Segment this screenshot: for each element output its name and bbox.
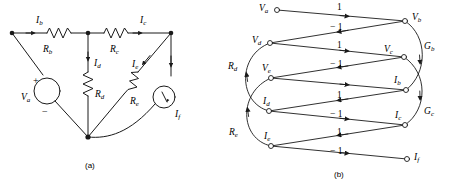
circuit-node-top-middle xyxy=(86,31,91,36)
graph-label-vd: Vd xyxy=(252,36,261,47)
label-current-if: If xyxy=(175,110,180,121)
label-resistor-re: Re xyxy=(130,97,139,108)
graph-label-ib: Ib xyxy=(394,76,401,87)
figure-container: Ib Ic Id Ie If Rb Rc Rd Re Va + − Va Vd … xyxy=(0,0,450,183)
graph-label-vc: Vc xyxy=(384,45,393,56)
graph-node-ve xyxy=(269,76,274,81)
graph-node-ib xyxy=(404,88,409,93)
graph-label-vb: Vb xyxy=(412,13,421,24)
label-current-ic: Ic xyxy=(140,16,146,27)
wire-re-lower xyxy=(88,94,124,137)
current-source-needle-tip xyxy=(167,99,170,102)
label-resistor-rb: Rb xyxy=(43,45,52,56)
graph-node-vd xyxy=(268,41,273,46)
graph-label-ve: Ve xyxy=(262,64,271,75)
edge-gain-4: − 1 xyxy=(330,60,342,70)
wire-if-lower-arc xyxy=(88,104,155,137)
branch-arrow-gb xyxy=(420,55,421,63)
branch-arrow-re xyxy=(248,109,249,117)
arc-gain-gb: Gb xyxy=(424,42,434,53)
figure-vector-layer xyxy=(0,0,450,183)
label-resistor-rd: Rd xyxy=(95,90,104,101)
arc-gain-gc: Gc xyxy=(424,107,434,118)
resistor-rc-symbol xyxy=(104,28,128,38)
edge-gain-5: 1 xyxy=(337,91,342,101)
edge-gain-8: − 1 xyxy=(330,147,342,157)
graph-label-ie: Ie xyxy=(264,132,270,143)
resistor-rd-symbol xyxy=(83,72,93,96)
graph-node-id xyxy=(267,109,272,114)
branch-ve-ib xyxy=(271,78,406,90)
branch-arrow-ve-ib xyxy=(340,84,348,85)
label-current-ib: Ib xyxy=(36,16,43,27)
circuit-node-left xyxy=(10,31,15,36)
circuit-node-bottom xyxy=(85,134,90,139)
edge-gain-3: 1 xyxy=(337,41,342,51)
wire-source-upper xyxy=(12,33,43,75)
edge-gain-7: 1 xyxy=(337,128,342,138)
edge-gain-1: 1 xyxy=(337,3,342,13)
graph-label-va: Va xyxy=(259,4,268,15)
graph-label-ic: Ic xyxy=(395,111,401,122)
caption-b: (b) xyxy=(334,170,344,179)
branch-arrow-rd xyxy=(246,74,247,82)
caption-a: (a) xyxy=(85,161,95,170)
graph-node-va xyxy=(275,8,280,13)
circuit-node-right xyxy=(169,31,174,36)
graph-node-if xyxy=(405,157,410,162)
polarity-plus: + xyxy=(33,76,39,86)
wire-re-upper xyxy=(138,33,171,72)
current-source-needle xyxy=(162,92,167,102)
arc-gain-rd: Rd xyxy=(228,62,237,73)
polarity-minus: − xyxy=(42,107,48,117)
graph-node-vb xyxy=(403,19,408,24)
graph-node-vc xyxy=(402,55,407,60)
graph-label-if: If xyxy=(414,153,419,164)
resistor-rb-symbol xyxy=(47,28,71,38)
label-voltage-source-va: Va xyxy=(21,93,30,104)
graph-node-ie xyxy=(269,144,274,149)
graph-label-id: Id xyxy=(263,97,270,108)
wire-source-lower xyxy=(55,101,88,137)
arc-gain-re: Re xyxy=(229,128,238,139)
resistor-re-symbol xyxy=(124,72,139,94)
label-current-ie: Ie xyxy=(132,60,138,71)
label-resistor-rc: Rc xyxy=(110,45,119,56)
edge-gain-2: − 1 xyxy=(330,23,342,33)
edge-gain-6: − 1 xyxy=(330,110,342,120)
graph-node-ic xyxy=(403,123,408,128)
label-current-id: Id xyxy=(94,59,101,70)
